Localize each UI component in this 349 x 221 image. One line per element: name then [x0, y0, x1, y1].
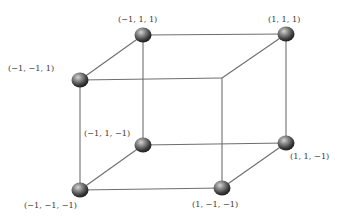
cube-edge: [80, 188, 222, 190]
cube-edge: [143, 34, 286, 35]
vertex-label: (−1, 1, 1): [118, 14, 157, 24]
vertex-ball: [278, 27, 295, 42]
vertex-label: (1, −1, −1): [192, 199, 238, 209]
vertex-labels: (−1, −1, 1)(−1, 1, 1)(1, 1, 1)(−1, 1, −1…: [8, 14, 329, 210]
cube-edge: [80, 145, 143, 190]
vertex-label: (1, 1, −1): [290, 151, 329, 161]
cube-edges: [80, 34, 286, 190]
cube-diagram: (−1, −1, 1)(−1, 1, 1)(1, 1, 1)(−1, 1, −1…: [0, 0, 349, 221]
vertex-label: (−1, 1, −1): [84, 128, 130, 138]
cube-edge: [80, 78, 222, 80]
vertex-ball: [72, 73, 89, 88]
vertex-ball: [135, 28, 152, 43]
vertex-ball: [72, 183, 89, 198]
vertex-ball: [214, 181, 231, 196]
vertex-ball: [135, 138, 152, 153]
cube-edge: [222, 34, 286, 78]
vertex-label: (1, 1, 1): [268, 14, 300, 24]
cube-edge: [143, 143, 286, 145]
cube-edge: [80, 35, 143, 80]
vertex-ball: [278, 136, 295, 151]
vertex-label: (−1, −1, −1): [24, 200, 77, 210]
vertex-label: (−1, −1, 1): [8, 63, 54, 73]
cube-edge: [222, 143, 286, 188]
